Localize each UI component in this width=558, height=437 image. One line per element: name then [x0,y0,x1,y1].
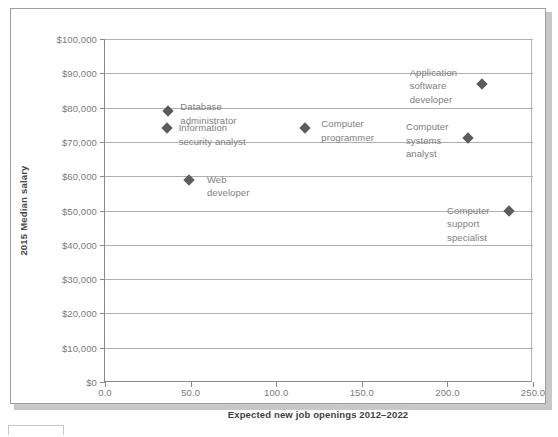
y-tick [100,348,105,349]
y-tick [100,108,105,109]
y-tick-label: $40,000 [62,239,97,250]
y-tick-label: $50,000 [62,205,97,216]
y-tick [100,313,105,314]
data-point-information-security-analyst[interactable] [161,123,172,134]
gridline [105,176,533,177]
x-tick-label: 150.0 [350,387,374,398]
y-tick [100,176,105,177]
gridline [105,73,533,74]
x-tick-label: 200.0 [435,387,459,398]
figure-frame: 2015 Median salary Expected new job open… [10,8,546,404]
y-tick-label: $70,000 [62,136,97,147]
data-label-web-developer: Web developer [207,173,250,200]
y-tick-label: $0 [86,377,97,388]
gridline [105,39,533,40]
y-tick-label: $30,000 [62,274,97,285]
x-tick-label: 100.0 [264,387,288,398]
x-tick-label: 0.0 [98,387,112,398]
y-tick [100,73,105,74]
gridline [105,348,533,349]
x-tick-label: 250.0 [521,387,545,398]
data-point-application-software-developer[interactable] [476,78,487,89]
y-tick-label: $10,000 [62,342,97,353]
y-tick-label: $90,000 [62,68,97,79]
y-tick [100,39,105,40]
page-footer-rule [8,425,64,435]
gridline [105,279,533,280]
y-tick [100,245,105,246]
data-label-computer-support-specialist: Computer support specialist [447,204,490,245]
y-tick [100,142,105,143]
gridline [105,245,533,246]
data-label-computer-systems-analyst: Computer systems analyst [406,120,449,161]
x-tick-label: 50.0 [181,387,200,398]
data-label-information-security-analyst: Information security analyst [179,121,246,148]
data-point-computer-support-specialist[interactable] [503,205,514,216]
y-tick-label: $20,000 [62,308,97,319]
y-tick-label: $60,000 [62,171,97,182]
y-tick [100,211,105,212]
data-label-computer-programmer: Computer programmer [321,117,374,144]
gridline [105,313,533,314]
y-tick-label: $80,000 [62,102,97,113]
plot-area: $0$10,000$20,000$30,000$40,000$50,000$60… [104,39,532,382]
y-tick [100,279,105,280]
x-axis-title: Expected new job openings 2012–2022 [104,409,532,420]
data-label-application-software-developer: Application software developer [410,66,458,107]
y-axis-title-text: 2015 Median salary [17,39,31,382]
y-axis-title: 2015 Median salary [31,39,45,382]
y-tick-label: $100,000 [57,34,97,45]
data-point-computer-programmer[interactable] [300,123,311,134]
